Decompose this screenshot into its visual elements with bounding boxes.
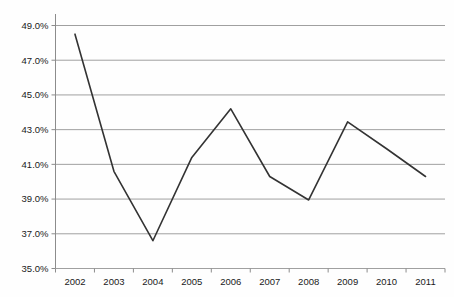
- x-axis-tick-label: 2002: [64, 276, 85, 287]
- y-axis-tick-label: 43.0%: [22, 124, 49, 135]
- y-axis-tick-label: 45.0%: [22, 89, 49, 100]
- x-axis-tick-label: 2008: [298, 276, 319, 287]
- x-axis-tick-label: 2009: [337, 276, 358, 287]
- x-axis-tick-label: 2004: [142, 276, 163, 287]
- y-axis-tick-label: 39.0%: [22, 193, 49, 204]
- x-axis-tick-label: 2010: [376, 276, 397, 287]
- y-axis-tick-label: 35.0%: [22, 263, 49, 274]
- chart-canvas: 35.0%37.0%39.0%41.0%43.0%45.0%47.0%49.0%…: [0, 0, 454, 297]
- y-axis-tick-label: 41.0%: [22, 159, 49, 170]
- x-axis-tick-label: 2011: [415, 276, 435, 287]
- y-axis-tick-label: 37.0%: [22, 228, 49, 239]
- y-axis-tick-label: 49.0%: [22, 20, 49, 31]
- x-axis-tick-label: 2006: [220, 276, 241, 287]
- x-axis-tick-label: 2003: [103, 276, 124, 287]
- x-axis-tick-label: 2007: [259, 276, 280, 287]
- x-axis-tick-label: 2005: [181, 276, 202, 287]
- line-chart: 35.0%37.0%39.0%41.0%43.0%45.0%47.0%49.0%…: [0, 0, 454, 297]
- y-axis-tick-label: 47.0%: [22, 55, 49, 66]
